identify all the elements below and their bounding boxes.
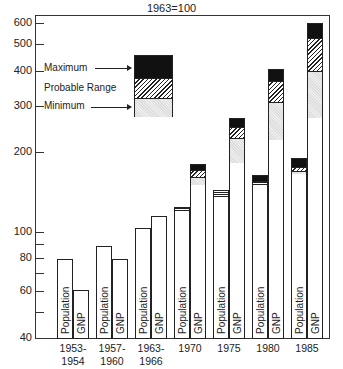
y-tick bbox=[36, 106, 44, 107]
y-label: 100 bbox=[2, 225, 32, 237]
y-label: 80 bbox=[2, 251, 32, 263]
legend-probable-range: Probable Range bbox=[44, 82, 116, 93]
arrow-icon bbox=[95, 68, 131, 69]
y-tick bbox=[36, 273, 44, 274]
chart-subtitle: 1963=100 bbox=[0, 2, 343, 14]
y-label: 600 bbox=[2, 16, 32, 28]
bar-population-1975: Population bbox=[213, 190, 229, 339]
x-label-1963: 1963-1966 bbox=[131, 342, 171, 368]
bar-population-1957: Population bbox=[96, 246, 112, 339]
bar-gnp-1957: GNP bbox=[112, 259, 128, 339]
y-label: 300 bbox=[2, 99, 32, 111]
y-tick bbox=[36, 291, 44, 292]
x-label-1957: 1957-1960 bbox=[92, 342, 132, 368]
x-label-1985: 1985 bbox=[287, 342, 327, 355]
legend-maximum: Maximum bbox=[44, 62, 87, 73]
legend-minimum: Minimum bbox=[44, 100, 85, 111]
x-label-1970: 1970 bbox=[170, 342, 210, 355]
x-label-1975: 1975 bbox=[209, 342, 249, 355]
bar-population-1970: Population bbox=[174, 207, 190, 339]
bar-gnp-1985: GNP bbox=[307, 23, 323, 339]
y-tick bbox=[36, 258, 44, 259]
bar-gnp-1975: GNP bbox=[229, 118, 245, 339]
bar-population-1985: Population bbox=[291, 158, 307, 339]
bar-population-1963: Population bbox=[135, 228, 151, 339]
y-label: 40 bbox=[2, 331, 32, 343]
arrow-icon bbox=[91, 107, 131, 108]
y-label: 200 bbox=[2, 145, 32, 157]
y-tick bbox=[36, 232, 44, 233]
y-tick bbox=[36, 244, 44, 245]
bar-gnp-1953: GNP bbox=[73, 290, 89, 339]
y-tick bbox=[36, 152, 44, 153]
legend-swatch bbox=[134, 55, 173, 117]
y-tick bbox=[36, 312, 44, 313]
chart-root: 1963=100 600 500 400 300 200 100 80 60 4… bbox=[0, 0, 343, 369]
y-tick bbox=[36, 23, 44, 24]
y-tick bbox=[36, 44, 44, 45]
y-label: 60 bbox=[2, 284, 32, 296]
bar-population-1953: Population bbox=[57, 259, 73, 339]
x-label-1953: 1953-1954 bbox=[53, 342, 93, 368]
bar-gnp-1963: GNP bbox=[151, 216, 167, 339]
x-label-1980: 1980 bbox=[248, 342, 288, 355]
y-tick bbox=[36, 71, 44, 72]
y-label: 500 bbox=[2, 37, 32, 49]
bar-population-1980: Population bbox=[252, 175, 268, 339]
bar-gnp-1970: GNP bbox=[190, 164, 206, 339]
y-label: 400 bbox=[2, 64, 32, 76]
bar-gnp-1980: GNP bbox=[268, 69, 284, 339]
